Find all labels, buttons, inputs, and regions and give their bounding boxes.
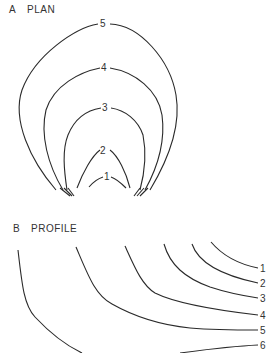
profile-contours: 1 2 3 4 5 6 — [18, 242, 266, 353]
profile-contour-2 — [192, 244, 258, 283]
profile-label-2: 2 — [260, 278, 266, 289]
profile-label-3: 3 — [260, 293, 266, 304]
profile-contour-5 — [76, 247, 258, 330]
plan-contour-5 — [19, 24, 177, 190]
profile-label-4: 4 — [260, 310, 266, 321]
profile-contour-4 — [125, 246, 258, 315]
profile-contour-3 — [164, 244, 258, 298]
profile-contour-6 — [18, 250, 258, 353]
plan-label-3: 3 — [102, 102, 108, 113]
plan-label-4: 4 — [101, 62, 107, 73]
profile-label-6: 6 — [260, 340, 266, 351]
profile-contour-1 — [211, 242, 258, 268]
plan-label-2: 2 — [100, 145, 106, 156]
diagram-canvas: 5 4 3 2 1 1 2 3 4 5 6 — [0, 0, 278, 353]
plan-label-1: 1 — [104, 171, 110, 182]
profile-label-5: 5 — [260, 325, 266, 336]
plan-label-5: 5 — [100, 18, 106, 29]
plan-contours: 5 4 3 2 1 — [19, 18, 177, 196]
profile-label-1: 1 — [260, 263, 266, 274]
